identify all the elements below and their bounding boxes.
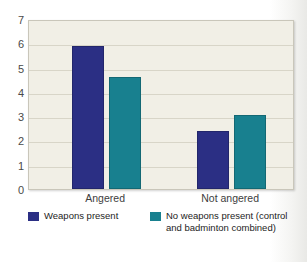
- y-axis-tick-labels: 01234567: [0, 20, 24, 190]
- legend-item-label: Weapons present: [44, 210, 118, 222]
- bar: [109, 77, 141, 189]
- y-axis-tick-label: 7: [2, 15, 24, 26]
- legend-swatch-icon: [150, 212, 161, 221]
- chart-figure: 01234567 AngeredNot angered Weapons pres…: [0, 0, 307, 262]
- plot-area: [28, 20, 294, 190]
- y-axis-tick-label: 6: [2, 39, 24, 50]
- x-axis-tick-label: Not angered: [201, 192, 259, 204]
- legend-swatch-icon: [28, 212, 39, 221]
- y-axis-tick-label: 0: [2, 185, 24, 196]
- gridline: [29, 94, 293, 95]
- y-axis-tick-label: 1: [2, 160, 24, 171]
- y-axis-tick-label: 2: [2, 136, 24, 147]
- chart-legend: Weapons present No weapons present (cont…: [28, 210, 303, 233]
- y-axis-tick-label: 5: [2, 63, 24, 74]
- legend-item-weapons-present[interactable]: Weapons present: [28, 210, 150, 222]
- legend-item-no-weapons-present[interactable]: No weapons present (control and badminto…: [150, 210, 303, 233]
- bar: [197, 131, 229, 189]
- legend-item-label: No weapons present (control and badminto…: [166, 210, 303, 233]
- bar: [72, 46, 104, 189]
- bar: [234, 115, 266, 189]
- y-axis-tick-label: 3: [2, 112, 24, 123]
- y-axis-tick-label: 4: [2, 87, 24, 98]
- plot-wrapper: [28, 20, 294, 190]
- x-axis-tick-label: Angered: [85, 192, 125, 204]
- gridline: [29, 70, 293, 71]
- gridline: [29, 45, 293, 46]
